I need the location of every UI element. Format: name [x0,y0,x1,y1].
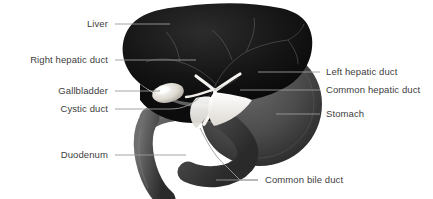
label-common-bile-duct: Common bile duct [265,175,343,185]
label-cystic-duct: Cystic duct [60,104,108,114]
label-common-hepatic-duct: Common hepatic duct [326,85,420,95]
label-left-hepatic-duct: Left hepatic duct [326,67,397,77]
label-stomach: Stomach [326,109,364,119]
label-right-hepatic-duct: Right hepatic duct [30,55,108,65]
label-gallbladder: Gallbladder [58,86,108,96]
label-liver: Liver [87,19,108,29]
anatomy-illustration [0,0,433,199]
label-duodenum: Duodenum [61,150,108,160]
anatomy-figure: Liver Right hepatic duct Gallbladder Cys… [0,0,433,199]
